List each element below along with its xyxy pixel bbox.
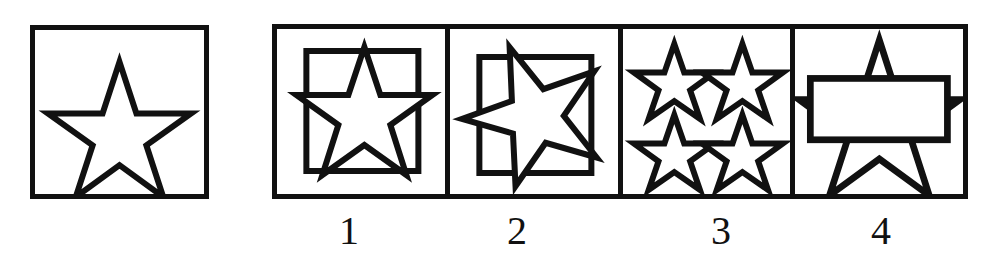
option-4-art (795, 29, 963, 194)
option-label-1: 1 (272, 203, 440, 263)
prompt-cell[interactable] (30, 25, 209, 199)
option-label-3: 3 (644, 203, 804, 263)
option-1-art (277, 29, 445, 194)
puzzle-root: 1 2 3 4 (0, 0, 1000, 271)
rotated-star-in-square-icon (450, 29, 618, 194)
star-in-square-icon (277, 29, 445, 194)
option-1-cell[interactable] (277, 29, 445, 194)
prompt-star-art (35, 30, 204, 194)
answer-options-panel (272, 24, 968, 199)
option-2-art (450, 29, 618, 194)
star-with-rectangle-overlay-icon (795, 29, 963, 194)
four-stars-grid-icon (623, 29, 791, 194)
option-label-4: 4 (804, 203, 968, 263)
option-label-2: 2 (440, 203, 644, 263)
option-labels-row: 1 2 3 4 (272, 203, 968, 263)
option-3-cell[interactable] (618, 29, 791, 194)
option-3-art (623, 29, 791, 194)
option-2-cell[interactable] (445, 29, 618, 194)
star-icon (35, 30, 204, 194)
option-4-cell[interactable] (790, 29, 963, 194)
